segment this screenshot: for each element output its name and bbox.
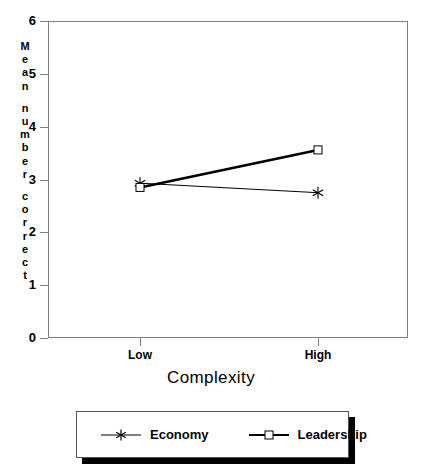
y-axis-title-char: M (14, 40, 36, 53)
y-tick-mark (40, 21, 48, 22)
plot-area (48, 21, 408, 338)
y-tick-label: 2 (10, 225, 36, 238)
x-tick-label-high: High (278, 348, 358, 362)
asterisk-icon (99, 427, 143, 443)
legend-label-economy: Economy (150, 428, 209, 442)
y-tick-label: 0 (10, 331, 36, 344)
y-tick-label: 5 (10, 67, 36, 80)
x-tick-label-low: Low (100, 348, 180, 362)
y-tick-label: 1 (10, 278, 36, 291)
y-axis-title-char: e (14, 53, 36, 66)
open-square-icon (247, 427, 291, 443)
legend-item-leadership[interactable]: Leadership (247, 427, 367, 443)
legend-item-economy[interactable]: Economy (99, 427, 209, 443)
y-axis-title-char: b (14, 141, 36, 154)
y-tick-mark (40, 74, 48, 75)
y-tick-mark (40, 127, 48, 128)
line-chart: M e a n n u m b e r c o r r e c t 6 5 4 … (0, 0, 422, 473)
y-tick-mark (40, 285, 48, 286)
y-axis-title-char: e (14, 243, 36, 256)
y-axis-title-char: e (14, 155, 36, 168)
y-tick-mark (40, 180, 48, 181)
legend: Economy Leadership (76, 411, 349, 458)
y-axis-title-char: c (14, 256, 36, 269)
y-axis-title-word-gap (14, 93, 36, 102)
y-tick-label: 3 (10, 173, 36, 186)
y-tick-mark (40, 338, 48, 339)
y-axis-title-char: n (14, 80, 36, 93)
y-tick-label: 4 (10, 120, 36, 133)
x-tick-mark (318, 338, 319, 346)
x-axis-title: Complexity (0, 368, 422, 388)
y-axis-title-char: c (14, 190, 36, 203)
legend-label-leadership: Leadership (298, 428, 367, 442)
y-tick-mark (40, 232, 48, 233)
y-axis-title-char: n (14, 102, 36, 115)
x-tick-mark (140, 338, 141, 346)
y-axis-title-char: o (14, 203, 36, 216)
y-tick-label: 6 (10, 14, 36, 27)
